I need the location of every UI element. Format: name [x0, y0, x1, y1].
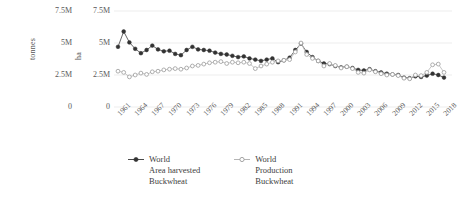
data-point: [305, 53, 309, 57]
data-point: [116, 45, 120, 49]
data-point: [265, 58, 269, 62]
data-point: [128, 41, 132, 45]
data-point: [322, 64, 326, 68]
data-point: [202, 62, 206, 66]
data-point: [139, 51, 143, 55]
data-point: [196, 64, 200, 68]
data-point: [396, 74, 400, 78]
y-tick-label: 0: [106, 103, 110, 111]
data-point: [339, 66, 343, 70]
data-point: [316, 59, 320, 63]
series-line: [118, 32, 444, 79]
data-point: [414, 73, 418, 77]
data-point: [219, 52, 223, 56]
data-point: [213, 51, 217, 55]
data-point: [282, 58, 286, 62]
series-lines: [114, 8, 452, 110]
data-point: [150, 44, 154, 48]
data-point: [436, 73, 440, 77]
data-point: [236, 55, 240, 59]
legend-item-area-harvested[interactable]: World Area harvested Buckwheat: [128, 154, 200, 198]
data-point: [345, 65, 349, 69]
data-point: [288, 58, 292, 62]
data-point: [253, 58, 257, 62]
data-point: [436, 62, 440, 66]
data-point: [379, 72, 383, 76]
data-point: [362, 71, 366, 75]
legend-item-production[interactable]: World Production Buckwheat: [234, 154, 293, 198]
data-point: [168, 67, 172, 71]
y-tick-label: 2.5M: [93, 71, 110, 79]
y-tick-label: 2.5M: [55, 71, 72, 79]
data-point: [431, 72, 435, 76]
data-point: [419, 74, 423, 78]
data-point: [213, 60, 217, 64]
y-axis-left-ticks: 7.5M5M2.5M0: [38, 0, 72, 122]
data-point: [271, 60, 275, 64]
data-point: [271, 57, 275, 61]
data-point: [248, 57, 252, 61]
legend-label-area-harvested: World Area harvested Buckwheat: [149, 154, 200, 187]
data-point: [196, 48, 200, 52]
y-axis-left-title: tonnes: [28, 38, 37, 60]
data-point: [242, 60, 246, 64]
data-point: [385, 73, 389, 77]
data-point: [179, 53, 183, 57]
data-point: [299, 41, 303, 45]
data-point: [225, 62, 229, 66]
data-point: [156, 69, 160, 73]
data-point: [116, 69, 120, 73]
data-point: [248, 62, 252, 66]
data-point: [408, 77, 412, 81]
data-point: [185, 48, 189, 52]
data-point: [179, 67, 183, 71]
data-point: [328, 62, 332, 66]
data-point: [333, 64, 337, 68]
data-point: [128, 75, 132, 79]
data-point: [139, 71, 143, 75]
data-point: [185, 66, 189, 70]
data-point: [162, 49, 166, 53]
data-point: [122, 30, 126, 34]
data-point: [208, 49, 212, 53]
data-point: [133, 47, 137, 51]
data-point: [293, 50, 297, 54]
data-point: [202, 48, 206, 52]
data-point: [162, 68, 166, 72]
data-point: [259, 64, 263, 68]
data-point: [219, 60, 223, 64]
data-point: [150, 70, 154, 74]
data-point: [168, 49, 172, 53]
data-point: [191, 64, 195, 68]
data-point: [402, 76, 406, 80]
data-point: [231, 54, 235, 58]
filled-circle-marker-icon: [128, 156, 144, 163]
data-point: [173, 52, 177, 56]
data-point: [374, 70, 378, 74]
y-tick-label: 5M: [61, 39, 72, 47]
y-tick-label: 7.5M: [55, 7, 72, 15]
data-point: [311, 57, 315, 61]
chart-legend: World Area harvested Buckwheat World Pro…: [128, 154, 358, 198]
open-circle-marker-icon: [234, 156, 250, 163]
data-point: [265, 62, 269, 66]
data-point: [276, 59, 280, 63]
data-point: [145, 48, 149, 52]
data-point: [242, 55, 246, 59]
plot-area: [114, 8, 452, 110]
y-tick-label: 5M: [99, 39, 110, 47]
data-point: [133, 73, 137, 77]
data-point: [442, 76, 446, 80]
data-point: [145, 73, 149, 77]
data-point: [368, 68, 372, 72]
data-point: [442, 71, 446, 75]
x-axis-ticks: 1961196419671970197319761979198219851988…: [114, 110, 452, 146]
data-point: [425, 71, 429, 75]
data-point: [431, 63, 435, 67]
data-point: [156, 48, 160, 52]
data-point: [122, 71, 126, 75]
data-point: [236, 61, 240, 65]
data-point: [231, 60, 235, 64]
data-point: [391, 73, 395, 77]
